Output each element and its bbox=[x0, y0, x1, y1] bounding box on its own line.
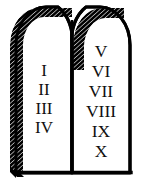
numeral-i: I bbox=[41, 61, 47, 80]
numeral-vi: VI bbox=[92, 61, 111, 81]
numeral-ii: II bbox=[38, 80, 50, 99]
numeral-viii: VIII bbox=[86, 101, 116, 121]
numeral-vii: VII bbox=[89, 81, 113, 101]
numeral-iv: IV bbox=[35, 118, 54, 137]
numeral-v: V bbox=[95, 41, 108, 61]
numeral-x: X bbox=[95, 141, 108, 161]
numeral-ix: IX bbox=[92, 121, 111, 141]
numeral-iii: III bbox=[36, 99, 53, 118]
tablets-drawing: I II III IV V VI VII VIII IX X bbox=[0, 0, 144, 190]
ten-commandments-illustration: I II III IV V VI VII VIII IX X bbox=[0, 0, 144, 190]
